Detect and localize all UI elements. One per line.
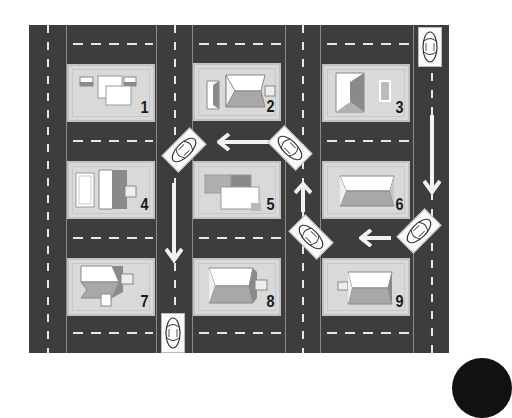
house-lot-9: 9	[322, 258, 410, 316]
arrow-down-icon	[165, 183, 183, 265]
lane-marking	[73, 237, 153, 239]
house-number: 7	[140, 292, 148, 312]
house-lot-8: 8	[193, 258, 281, 316]
house-lot-3: 3	[322, 64, 410, 122]
house-number: 2	[266, 97, 274, 117]
house-number: 3	[395, 98, 403, 118]
lane-marking	[199, 332, 281, 334]
lane-marking	[73, 140, 153, 142]
house-lot-6: 6	[322, 161, 410, 219]
arrow-down-icon	[423, 115, 441, 197]
car-icon	[288, 214, 333, 259]
curb-line	[413, 25, 414, 353]
curb-line	[285, 25, 286, 353]
lane-marking	[327, 140, 409, 142]
arrow-left-icon	[217, 133, 269, 151]
lane-marking	[73, 332, 153, 334]
house-number: 5	[266, 195, 274, 215]
curb-line	[156, 25, 157, 353]
lane-marking	[199, 237, 281, 239]
car-icon	[418, 27, 442, 67]
house-number: 6	[395, 195, 403, 215]
arrow-up-icon	[294, 182, 312, 212]
street-map: 1 2 3 4	[29, 25, 449, 353]
black-circle-fragment	[452, 358, 512, 418]
arrow-left-icon	[359, 229, 391, 247]
lane-marking	[199, 43, 281, 45]
curb-line	[320, 25, 321, 353]
lane-marking	[47, 25, 49, 353]
house-lot-2: 2	[193, 63, 281, 121]
house-number: 8	[266, 292, 274, 312]
house-lot-5: 5	[193, 161, 281, 219]
house-lot-1: 1	[67, 64, 155, 122]
house-number: 4	[140, 195, 148, 215]
house-number: 1	[140, 98, 148, 118]
car-icon	[161, 313, 185, 353]
house-number: 9	[395, 292, 403, 312]
house-lot-7: 7	[67, 258, 155, 316]
lane-marking	[327, 43, 409, 45]
lane-marking	[73, 43, 153, 45]
lane-marking	[327, 332, 409, 334]
house-lot-4: 4	[67, 161, 155, 219]
